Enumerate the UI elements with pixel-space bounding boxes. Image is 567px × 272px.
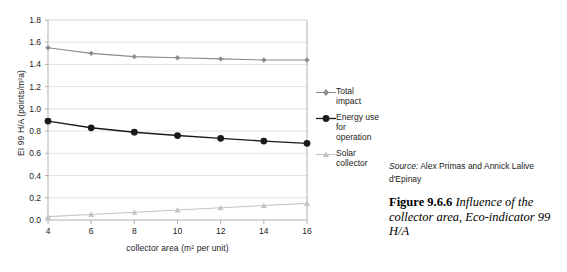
legend-label-total-impact: Total impact [336, 86, 361, 106]
figure-caption: Figure 9.6.6 Influence of the collector … [389, 195, 561, 239]
x-axis-tick-label: 8 [132, 226, 137, 236]
source-line: Source: Alex Primas and Annick Lalive d'… [389, 160, 561, 186]
data-point-circle [174, 132, 181, 139]
legend-label-line3: operation [336, 132, 371, 142]
y-axis-tick-label: 1.6 [29, 37, 41, 47]
legend-label-line1: Total [336, 86, 354, 96]
data-point-circle [304, 140, 311, 147]
data-point-diamond [132, 54, 137, 59]
data-point-diamond [304, 57, 309, 62]
data-point-circle [88, 124, 95, 131]
caption-block: Source: Alex Primas and Annick Lalive d'… [389, 160, 561, 239]
legend-label-line1: Solar [336, 148, 356, 158]
y-axis-tick-label: 0.6 [29, 148, 41, 158]
data-point-diamond [261, 57, 266, 62]
legend-item-energy-use: Energy use for operation [316, 112, 396, 142]
data-point-diamond [175, 55, 180, 60]
y-axis-tick-label: 0.4 [29, 171, 41, 181]
legend-label-line2: for [336, 122, 346, 132]
y-axis-tick-label: 1.2 [29, 82, 41, 92]
legend-label-line2: impact [336, 96, 361, 106]
figure-9-6-6: 0.00.20.40.60.81.01.21.41.61.84681012141… [0, 0, 567, 272]
y-axis-tick-label: 1.4 [29, 59, 41, 69]
legend-label-energy-use: Energy use for operation [336, 112, 379, 142]
circle-marker-icon [316, 113, 336, 124]
data-point-circle [260, 138, 267, 145]
x-axis-tick-label: 4 [46, 226, 51, 236]
line-chart-svg: 0.00.20.40.60.81.01.21.41.61.84681012141… [0, 0, 340, 272]
data-point-circle [45, 118, 52, 125]
x-axis-tick-label: 10 [173, 226, 183, 236]
x-axis-tick-label: 6 [89, 226, 94, 236]
legend-item-solar-collector: Solar collector [316, 148, 396, 168]
legend-label-line1: Energy use [336, 112, 379, 122]
diamond-marker-icon [316, 87, 336, 98]
y-axis-title: EI 99 H/A (points/m²a) [16, 38, 26, 188]
data-point-circle [131, 129, 138, 136]
x-axis-tick-label: 16 [302, 226, 312, 236]
y-axis-tick-label: 0.8 [29, 126, 41, 136]
figure-number: Figure 9.6.6 [389, 195, 452, 209]
chart-legend: Total impact Energy use for operation [316, 86, 396, 174]
y-axis-tick-label: 1.0 [29, 104, 41, 114]
data-point-diamond [45, 45, 50, 50]
legend-label-line2: collector [336, 158, 368, 168]
legend-label-solar-collector: Solar collector [336, 148, 368, 168]
triangle-marker-icon [316, 149, 336, 160]
y-axis-tick-label: 0.2 [29, 193, 41, 203]
x-axis-tick-label: 14 [259, 226, 269, 236]
chart-area: 0.00.20.40.60.81.01.21.41.61.84681012141… [0, 0, 340, 272]
y-axis-tick-label: 0.0 [29, 215, 41, 225]
x-axis-title: collector area (m² per unit) [48, 243, 307, 253]
legend-item-total-impact: Total impact [316, 86, 396, 106]
data-point-diamond [218, 56, 223, 61]
data-point-circle [217, 135, 224, 142]
data-point-diamond [88, 51, 93, 56]
y-axis-tick-label: 1.8 [29, 15, 41, 25]
source-prefix: Source: [389, 161, 418, 171]
x-axis-tick-label: 12 [216, 226, 226, 236]
